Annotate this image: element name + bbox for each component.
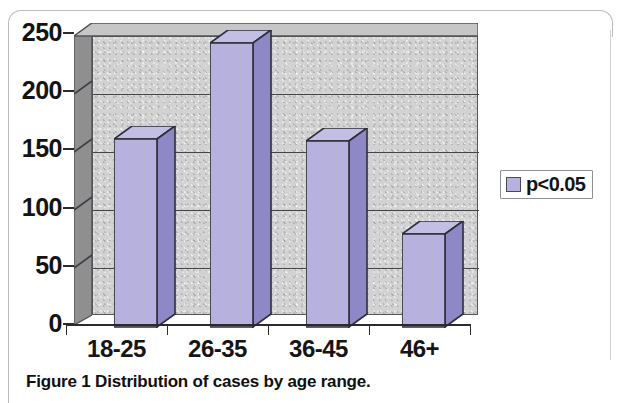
x-tick-mark: [167, 324, 168, 335]
chart-legend: p<0.05: [500, 170, 593, 199]
bar-chart: 250 200 150 100 50 0: [0, 0, 619, 360]
y-tick-mark: [63, 207, 74, 209]
legend-swatch-icon: [506, 177, 521, 192]
y-axis: 250 200 150 100 50 0: [6, 0, 62, 360]
plot-left-wall: [74, 23, 92, 325]
bar-column: [210, 30, 272, 328]
legend-entry-label: p<0.05: [526, 174, 585, 194]
bar-column: [306, 128, 368, 328]
x-tick-label: 26-35: [167, 337, 268, 361]
y-tick-label: 200: [6, 78, 62, 103]
y-tick-mark: [63, 90, 74, 92]
y-tick-label: 50: [6, 253, 62, 278]
x-tick-mark: [66, 324, 67, 335]
bar-column: [114, 126, 176, 328]
y-tick-label: 100: [6, 195, 62, 220]
plot-area: [74, 23, 478, 325]
gridline: [93, 94, 479, 95]
y-tick-mark: [63, 32, 74, 34]
figure-caption: Figure 1 Distribution of cases by age ra…: [26, 372, 371, 392]
x-tick-mark: [470, 324, 471, 335]
x-tick-mark: [369, 324, 370, 335]
figure-caption-text: Distribution of cases by age range.: [95, 372, 370, 391]
y-tick-label: 150: [6, 136, 62, 161]
x-tick-label: 36-45: [268, 337, 369, 361]
y-tick-mark: [63, 265, 74, 267]
figure-caption-label: Figure 1: [26, 372, 91, 391]
x-tick-mark: [268, 324, 269, 335]
y-tick-label: 250: [6, 20, 62, 45]
y-tick-mark: [63, 148, 74, 150]
bar-column: [402, 221, 464, 328]
y-tick-label: 0: [6, 311, 62, 336]
x-tick-label: 46+: [369, 337, 470, 361]
x-tick-label: 18-25: [66, 337, 167, 361]
plot-top-ledge: [74, 23, 478, 37]
